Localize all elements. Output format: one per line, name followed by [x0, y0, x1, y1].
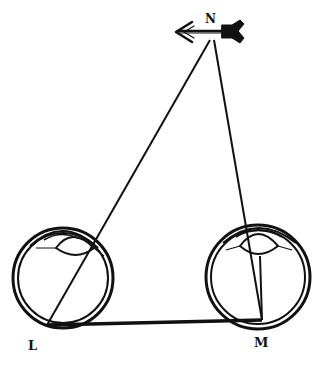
- left-eye: [13, 228, 113, 328]
- label-m: M: [254, 335, 268, 350]
- label-n: N: [205, 12, 216, 26]
- convergence-diagram: N L M: [0, 0, 329, 365]
- sight-line-left: [47, 40, 210, 325]
- label-l: L: [28, 338, 37, 353]
- sight-line-right: [214, 40, 262, 320]
- sight-lines: [47, 40, 262, 325]
- right-eye: [206, 225, 310, 329]
